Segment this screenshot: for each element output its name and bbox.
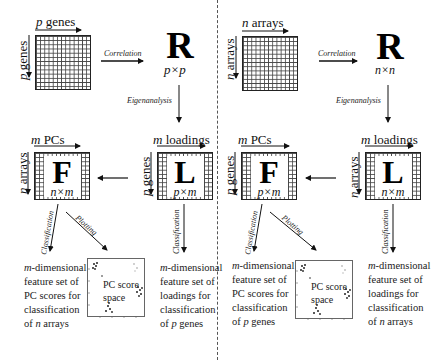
L-matrix: L p×m xyxy=(157,152,213,200)
correlation-label-r: Correlation xyxy=(318,50,355,58)
L-top-label-r: m loadings xyxy=(361,133,418,146)
correlation-label: Correlation xyxy=(104,50,141,58)
F-dimension: n×m xyxy=(35,186,89,198)
data-matrix-grid-r xyxy=(242,36,298,91)
L-dimension-r: n×m xyxy=(366,186,420,198)
eigenanalysis-label: Eigenanalysis xyxy=(127,97,172,105)
R-letter-r: R xyxy=(370,27,410,65)
eigenanalysis-label-r: Eigenanalysis xyxy=(336,97,381,105)
L-side-label: p genes xyxy=(139,157,152,196)
R-matrix: R xyxy=(160,26,200,66)
R-dimension-r: n×n xyxy=(375,64,395,76)
L-classification-label: Classification xyxy=(173,210,181,254)
scatter-label-r: PC score space xyxy=(311,280,347,306)
L-letter: L xyxy=(158,156,212,188)
data-matrix-top-label: p genes xyxy=(36,15,75,28)
data-matrix-top-label-r: n arrays xyxy=(242,16,284,29)
R-matrix-r: R xyxy=(370,27,410,67)
F-side-label-r: p genes xyxy=(223,156,236,195)
R-dimension: p×p xyxy=(164,63,186,76)
data-matrix-grid xyxy=(35,35,91,90)
L-top-label: m loadings xyxy=(153,133,210,146)
L-result-text-r: m-dimensional feature set of loadings fo… xyxy=(368,259,430,329)
pc-score-scatter: PC score space xyxy=(87,258,145,317)
L-letter-r: L xyxy=(366,156,420,188)
F-top-label: m PCs xyxy=(31,133,65,146)
R-letter: R xyxy=(160,26,200,64)
F-dimension-r: p×m xyxy=(242,186,296,198)
L-matrix-r: L n×m xyxy=(365,152,421,200)
pc-score-scatter-r: PC score space xyxy=(295,260,353,319)
F-matrix: F n×m xyxy=(34,152,90,200)
L-classification-label-r: Classification xyxy=(382,210,390,254)
scatter-label: PC score space xyxy=(103,278,139,304)
F-result-text: m-dimensional feature set of PC scores f… xyxy=(24,261,86,331)
F-top-label-r: m PCs xyxy=(238,133,272,146)
F-letter: F xyxy=(35,156,89,188)
F-matrix-r: F p×m xyxy=(241,152,297,200)
F-result-text-r: m-dimensional feature set of PC scores f… xyxy=(232,259,294,329)
L-dimension: p×m xyxy=(158,186,212,198)
F-side-label: n arrays xyxy=(16,152,29,194)
F-letter-r: F xyxy=(242,156,296,188)
L-side-label-r: n arrays xyxy=(347,156,360,198)
data-matrix-side-label: p genes xyxy=(16,41,29,80)
L-result-text: m-dimensional feature set of loadings fo… xyxy=(160,261,222,331)
data-matrix-side-label-r: n arrays xyxy=(223,38,236,80)
